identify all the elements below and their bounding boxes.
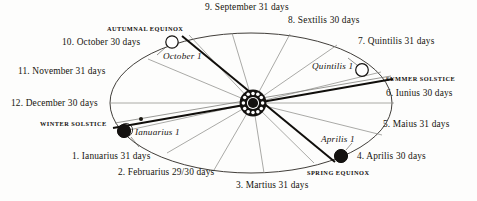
marker-aprilis [334, 149, 347, 162]
month-label-october: 10. October 30 days [62, 38, 140, 48]
marker-caption-october: October 1 [163, 52, 202, 61]
sun-symbol [240, 90, 267, 117]
event-label-autumnal-equinox: AUTUMNAL EQUINOX [107, 26, 183, 32]
month-label-november: 11. November 31 days [18, 67, 106, 77]
month-label-aprilis: 4. Aprilis 30 days [357, 152, 426, 162]
month-label-sextilis: 8. Sextilis 30 days [288, 16, 360, 26]
month-label-februarius: 2. Februarius 29/30 days [118, 168, 214, 178]
event-label-spring-equinox: SPRING EQUINOX [307, 170, 369, 176]
marker-caption-aprilis: Aprilis 1 [321, 135, 355, 144]
month-label-martius: 3. Martius 31 days [236, 181, 309, 191]
marker-quintilis [356, 64, 369, 77]
orbital-calendar-diagram: 9. September 31 days 8. Sextilis 30 days… [0, 0, 477, 201]
marker-satellite-dot [139, 117, 143, 121]
marker-october [166, 36, 178, 48]
month-label-december: 12. December 30 days [11, 99, 98, 109]
marker-caption-ianuarius: Ianuarius 1 [135, 128, 180, 137]
event-label-winter-solstice: WINTER SOLSTICE [40, 121, 107, 127]
month-label-september: 9. September 31 days [205, 3, 289, 13]
month-label-iunius: 6. Iunius 30 days [386, 89, 453, 99]
month-label-ianuarius: 1. Ianuarius 31 days [72, 152, 151, 162]
marker-caption-quintilis: Quintilis 1 [312, 62, 353, 71]
month-label-maius: 5. Maius 31 days [383, 120, 449, 130]
month-label-quintilis: 7. Quintilis 31 days [358, 37, 434, 47]
event-label-summer-solstice: SUMMER SOLSTICE [386, 76, 455, 82]
